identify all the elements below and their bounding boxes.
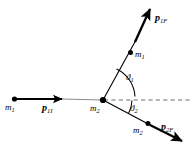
label-final-momentum-2: p2F	[161, 122, 173, 133]
label-final-momentum-1-subscript: 1F	[160, 17, 167, 24]
incoming-axis-thin-line	[62, 99, 103, 100]
label-target-mass: m2	[90, 104, 100, 114]
label-scattered-mass-1-subscript: 1	[142, 53, 145, 60]
label-angle-upper: ϑ1	[126, 73, 134, 83]
vertex-target-mass-dot	[100, 97, 106, 103]
label-angle-upper-subscript: 1	[130, 76, 133, 83]
label-incoming-mass: m1	[5, 103, 15, 113]
label-scattered-mass-2: m2	[133, 126, 143, 136]
label-target-mass-subscript: 2	[97, 107, 100, 114]
label-initial-momentum-subscript: 1I	[47, 107, 52, 114]
label-angle-lower-subscript: 2	[134, 107, 137, 114]
label-scattered-mass-1: m1	[135, 50, 145, 60]
label-final-momentum-2-subscript: 2F	[166, 126, 173, 133]
incoming-mass-dot	[12, 96, 17, 101]
label-scattered-mass-2-subscript: 2	[140, 129, 143, 136]
label-angle-lower: ϑ2	[130, 104, 138, 114]
label-initial-momentum: p1I	[42, 103, 52, 114]
lower-mass-dot	[146, 121, 151, 126]
upper-mass-dot	[128, 50, 133, 55]
label-final-momentum-1: p1F	[155, 13, 167, 24]
lower-branch-shaft	[103, 100, 152, 126]
momentum-diagram-figure: m1 p1I m2 m1 p1F m2 p2F ϑ1 ϑ2	[0, 0, 193, 148]
upper-momentum-arrow	[135, 9, 150, 42]
label-incoming-mass-subscript: 1	[12, 106, 15, 113]
